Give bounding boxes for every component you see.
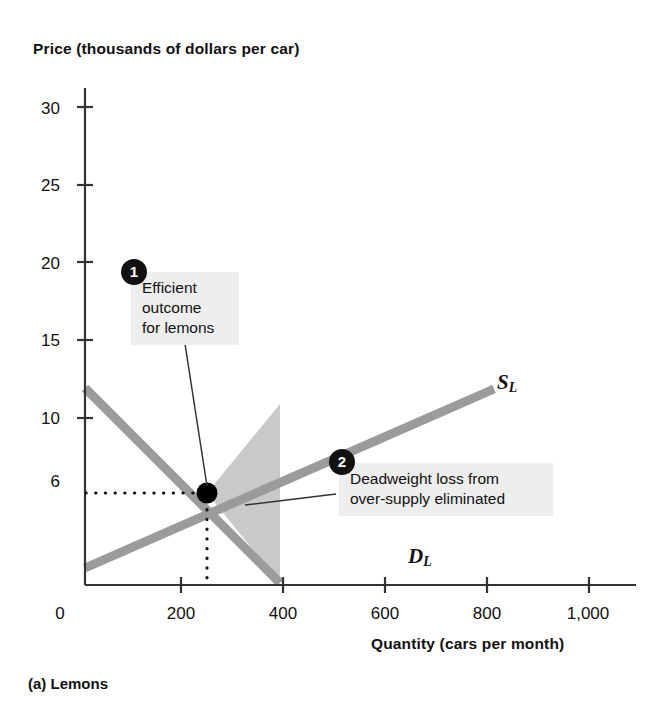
demand-curve-label-sub: L <box>423 554 431 569</box>
figure-caption: (a) Lemons <box>28 675 108 692</box>
callout-efficient-outcome: Efficient outcome for lemons <box>131 272 239 345</box>
demand-curve-label: DL <box>408 544 432 570</box>
lemons-market-figure: Price (thousands of dollars per car) Qua… <box>0 0 655 717</box>
deadweight-loss-region <box>207 404 280 583</box>
supply-curve-label-sub: L <box>509 380 517 395</box>
supply-curve-label: SL <box>497 370 517 396</box>
callout-badge-1: 1 <box>121 259 147 285</box>
callout-deadweight-loss: Deadweight loss from over-supply elimina… <box>339 463 553 516</box>
plot-area <box>0 0 655 717</box>
demand-curve-label-main: D <box>408 544 423 568</box>
callout-badge-2: 2 <box>329 449 355 475</box>
supply-curve-label-main: S <box>497 370 509 394</box>
callout-1-leader-line <box>185 344 207 486</box>
